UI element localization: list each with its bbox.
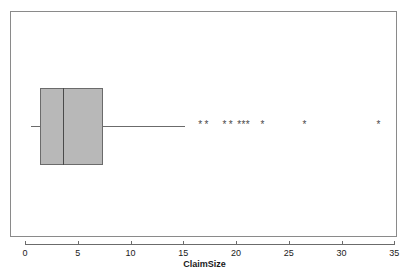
x-tick-5 [78, 241, 79, 245]
x-tick-label-30: 30 [330, 248, 354, 258]
x-tick-20 [236, 241, 237, 245]
x-tick-label-35: 35 [382, 248, 406, 258]
outlier-point: * [374, 121, 382, 129]
whisker-left [31, 126, 39, 127]
median-line [63, 88, 64, 165]
outlier-point: * [244, 121, 252, 129]
x-tick-label-10: 10 [119, 248, 143, 258]
outlier-point: * [301, 121, 309, 129]
plot-area: ********** [0, 0, 409, 275]
x-tick-label-5: 5 [66, 248, 90, 258]
x-tick-25 [289, 241, 290, 245]
box-iqr [40, 88, 103, 165]
x-tick-0 [25, 241, 26, 245]
x-axis-line [25, 244, 395, 245]
x-tick-label-15: 15 [171, 248, 195, 258]
x-tick-30 [342, 241, 343, 245]
x-tick-15 [183, 241, 184, 245]
x-tick-35 [394, 241, 395, 245]
outlier-point: * [227, 121, 235, 129]
x-tick-label-0: 0 [13, 248, 37, 258]
x-tick-10 [131, 241, 132, 245]
whisker-right [103, 126, 185, 127]
outlier-point: * [258, 121, 266, 129]
box-plot-figure: ********** 05101520253035 ClaimSize [0, 0, 409, 275]
x-tick-label-25: 25 [277, 248, 301, 258]
x-axis-title: ClaimSize [0, 259, 409, 269]
outlier-point: * [202, 121, 210, 129]
x-tick-label-20: 20 [224, 248, 248, 258]
